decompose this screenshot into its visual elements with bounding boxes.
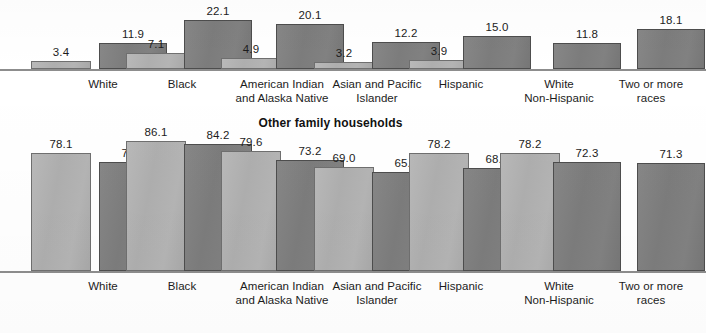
chart-figure: 3.411.9White7.122.1Black4.920.1American … [0,0,706,333]
bottom-chart-panel: Other family households 78.171.9White86.… [0,112,706,333]
bar-bottom-light-2 [221,151,281,271]
value-label-top-light-3: 3.2 [306,47,382,60]
bar-bottom-dark-6 [637,163,705,271]
value-label-bottom-dark-5: 72.3 [545,147,629,160]
value-label-top-dark-6: 18.1 [629,14,706,27]
bar-top-dark-4 [463,36,531,69]
bottom-chart-title: Other family households [228,116,433,130]
bar-bottom-light-3 [314,167,374,271]
bar-top-dark-6 [637,29,705,69]
bar-bottom-dark-5 [553,162,621,271]
bar-top-light-1 [126,53,186,69]
bar-bottom-light-5 [500,153,560,271]
bottom-chart-axis-line [0,271,706,273]
bar-bottom-light-0 [31,153,91,271]
value-label-top-dark-2: 20.1 [268,9,352,22]
category-label-top-6: Two or more races [592,78,706,105]
value-label-bottom-light-4: 78.2 [401,138,477,151]
value-label-top-dark-5: 11.8 [545,28,629,41]
bar-top-light-0 [31,61,91,69]
value-label-bottom-dark-6: 71.3 [629,148,706,161]
bar-top-light-3 [314,62,374,69]
bar-bottom-light-1 [126,141,186,271]
top-chart-axis-line [0,69,706,71]
value-label-top-dark-1: 22.1 [176,5,260,18]
bar-bottom-light-4 [409,153,469,271]
bar-top-light-4 [409,60,469,69]
top-chart-panel: 3.411.9White7.122.1Black4.920.1American … [0,0,706,112]
value-label-top-dark-3: 12.2 [364,27,448,40]
value-label-top-light-1: 7.1 [118,38,194,51]
value-label-bottom-light-0: 78.1 [23,138,99,151]
value-label-top-dark-4: 15.0 [455,21,539,34]
category-label-bottom-6: Two or more races [592,280,706,307]
bar-top-dark-5 [553,43,621,69]
value-label-top-light-0: 3.4 [23,46,99,59]
bar-top-light-2 [221,58,281,69]
